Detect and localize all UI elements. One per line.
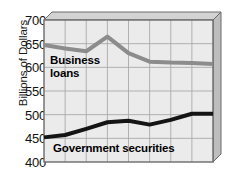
chart-container: Billions of Dollars 700 650 600 550 500 … <box>0 0 228 176</box>
government-securities-inline-label: Government securities <box>53 142 174 155</box>
plot-right-bevel <box>213 12 221 162</box>
business-loans-inline-label: Business loans <box>50 54 100 79</box>
business-loans-label-line2: loans <box>50 67 79 79</box>
plot-top-bevel <box>44 12 221 20</box>
business-loans-label-line1: Business <box>50 54 100 66</box>
